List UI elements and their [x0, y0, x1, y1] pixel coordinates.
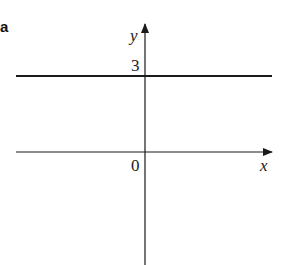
- y-axis-label: y: [128, 26, 138, 45]
- y-intercept-label: 3: [131, 56, 140, 75]
- x-axis-label: x: [259, 156, 268, 175]
- graph: y 3 0 x: [0, 0, 281, 265]
- origin-label: 0: [131, 156, 140, 175]
